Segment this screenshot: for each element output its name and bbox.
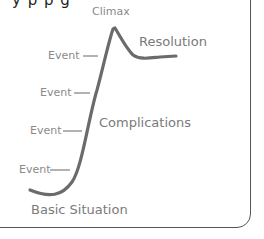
label-resolution: Resolution — [139, 34, 207, 49]
label-event-1: Event — [48, 49, 80, 62]
label-complications: Complications — [99, 115, 191, 130]
label-event-2: Event — [40, 86, 72, 99]
label-event-3: Event — [30, 124, 62, 137]
label-climax: Climax — [92, 5, 130, 18]
label-event-4: Event — [19, 163, 51, 176]
label-basic-situation: Basic Situation — [31, 202, 128, 217]
